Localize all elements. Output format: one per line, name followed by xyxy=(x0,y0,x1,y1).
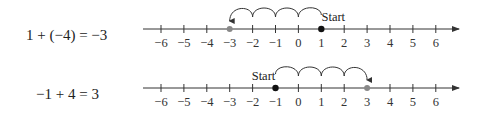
tick-label: −6 xyxy=(154,36,167,50)
tick-label: −1 xyxy=(269,95,282,109)
tick-label: 6 xyxy=(433,36,439,50)
tick-label: 5 xyxy=(410,95,416,109)
tick-label: −3 xyxy=(223,36,236,50)
tick-label: −5 xyxy=(177,36,190,50)
tick-label: 0 xyxy=(295,36,301,50)
tick-label: −4 xyxy=(200,95,214,109)
tick-label: −2 xyxy=(246,36,259,50)
tick-label: 4 xyxy=(387,36,394,50)
tick-label: 5 xyxy=(410,36,416,50)
hop-arc xyxy=(253,8,276,17)
start-label: Start xyxy=(252,69,276,83)
end-dot xyxy=(227,26,233,32)
start-dot xyxy=(318,26,324,32)
tick-label: 0 xyxy=(295,95,301,109)
tick-label: −3 xyxy=(223,95,236,109)
hop-arc xyxy=(230,8,253,21)
number-line-bottom: −6−5−4−3−2−10123456Start xyxy=(143,67,459,109)
tick-label: −1 xyxy=(269,36,282,50)
start-label: Start xyxy=(321,10,345,24)
tick-label: 1 xyxy=(318,95,324,109)
hop-arc xyxy=(298,67,321,76)
tick-label: 2 xyxy=(341,95,347,109)
tick-label: 2 xyxy=(341,36,347,50)
start-dot xyxy=(272,85,278,91)
tick-label: 4 xyxy=(387,95,394,109)
hop-arc xyxy=(276,67,299,76)
hop-arc xyxy=(344,67,367,80)
tick-label: −4 xyxy=(200,36,214,50)
tick-label: −6 xyxy=(154,95,167,109)
number-lines: −6−5−4−3−2−10123456Start −6−5−4−3−2−1012… xyxy=(0,0,482,117)
tick-label: −2 xyxy=(246,95,259,109)
end-dot xyxy=(364,85,370,91)
number-line-top: −6−5−4−3−2−10123456Start xyxy=(143,8,459,50)
tick-label: 3 xyxy=(364,95,370,109)
tick-label: 3 xyxy=(364,36,370,50)
tick-label: −5 xyxy=(177,95,190,109)
tick-label: 6 xyxy=(433,95,439,109)
hop-arc xyxy=(321,67,344,76)
hop-arc xyxy=(276,8,299,17)
hop-arc xyxy=(298,8,321,17)
tick-label: 1 xyxy=(318,36,324,50)
